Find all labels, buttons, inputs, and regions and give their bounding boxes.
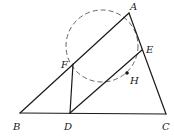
point-h-dot bbox=[125, 71, 129, 75]
label-a: A bbox=[129, 1, 137, 12]
label-b: B bbox=[12, 121, 20, 132]
label-e: E bbox=[145, 44, 154, 55]
dashed-circle bbox=[66, 10, 138, 82]
segments bbox=[20, 13, 166, 114]
segment-bc bbox=[20, 113, 166, 114]
label-f: F bbox=[60, 59, 69, 70]
label-d: D bbox=[63, 121, 72, 132]
segment-fd bbox=[70, 64, 73, 113]
segment-ac bbox=[129, 13, 166, 114]
segment-ab bbox=[20, 13, 129, 113]
geometry-diagram: A B C D E F H bbox=[0, 0, 174, 138]
label-h: H bbox=[129, 75, 139, 86]
label-c: C bbox=[162, 121, 170, 132]
